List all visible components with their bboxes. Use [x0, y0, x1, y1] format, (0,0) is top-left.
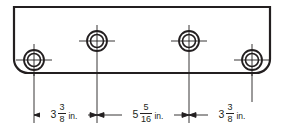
dimension-label-middle: 5516in.	[122, 102, 174, 126]
dimension-middle-whole: 5	[133, 109, 140, 120]
dimension-left-unit: in.	[66, 112, 77, 121]
dimension-right-unit: in.	[234, 112, 245, 121]
dimension-middle-numerator: 5	[142, 103, 149, 113]
arrowhead-right-start	[189, 113, 196, 118]
dimension-label-left: 338in.	[40, 102, 88, 126]
dimension-right-numerator: 3	[226, 103, 233, 113]
dimension-middle-unit: in.	[152, 112, 163, 121]
plate-outline	[14, 7, 270, 73]
dimension-left-denominator: 8	[58, 114, 65, 124]
dimension-label-right: 338in.	[208, 102, 256, 126]
dimension-middle-fraction: 516	[140, 103, 152, 124]
technical-drawing-canvas: 338in. 5516in. 338in.	[0, 0, 284, 130]
dimension-right-fraction: 38	[226, 103, 234, 124]
arrowhead-middle-start	[97, 113, 104, 118]
dimension-right-whole: 3	[219, 109, 226, 120]
dimension-left-whole: 3	[51, 109, 58, 120]
dimension-left-fraction: 38	[58, 103, 66, 124]
dimension-left-numerator: 3	[58, 103, 65, 113]
dimension-middle-denominator: 16	[140, 114, 152, 124]
dimension-right-denominator: 8	[226, 114, 233, 124]
